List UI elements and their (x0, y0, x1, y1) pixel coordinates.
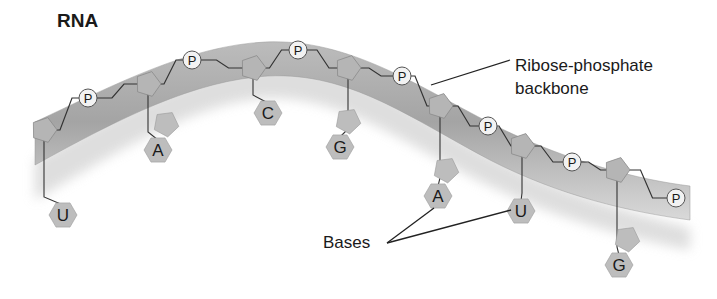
backbone-label-line1: Ribose-phosphate (515, 54, 653, 77)
rna-structure-illustration: UACGAUG PPPPPPP (0, 0, 717, 299)
phosphate-group: P (183, 51, 201, 69)
phosphate-symbol: P (484, 119, 493, 134)
diagram-title: RNA (57, 10, 98, 32)
backbone-leader-line (431, 60, 510, 85)
phosphate-symbol: P (568, 155, 577, 170)
phosphate-group: P (79, 89, 97, 107)
base-letter: U (57, 206, 69, 225)
phosphate-group: P (479, 117, 497, 135)
phosphate-group: P (667, 189, 685, 207)
phosphate-symbol: P (188, 53, 197, 68)
base-u: U (49, 203, 77, 227)
phosphate-symbol: P (294, 43, 303, 58)
base-letter: A (152, 141, 164, 160)
phosphate-group: P (563, 153, 581, 171)
base-letter: C (262, 104, 274, 123)
base-letter: A (432, 187, 444, 206)
backbone-label: Ribose-phosphate backbone (515, 54, 653, 100)
base-letter: U (515, 202, 527, 221)
phosphate-symbol: P (672, 191, 681, 206)
base-letter: G (333, 138, 346, 157)
bases-label: Bases (323, 231, 370, 254)
bases-leader-line-a (387, 208, 434, 243)
base-c: C (254, 101, 282, 125)
phosphate-symbol: P (84, 91, 93, 106)
rna-diagram: UACGAUG PPPPPPP RNA Ribose-phosphate bac… (0, 0, 717, 299)
phosphate-group: P (289, 41, 307, 59)
base-a: A (424, 159, 459, 209)
base-letter: G (612, 256, 625, 275)
bases-leader-line-u (387, 210, 511, 243)
phosphate-group: P (393, 67, 411, 85)
backbone-label-line2: backbone (515, 77, 653, 100)
base-g: G (605, 228, 640, 278)
phosphate-symbol: P (398, 69, 407, 84)
